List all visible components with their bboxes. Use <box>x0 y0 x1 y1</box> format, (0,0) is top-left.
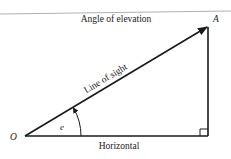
horizontal-label: Horizontal <box>99 141 140 151</box>
point-o-label: O <box>10 132 17 142</box>
angle-of-elevation-diagram: Angle of elevation A O e Line of sight H… <box>0 0 231 159</box>
point-a-label: A <box>212 14 219 24</box>
right-angle-marker <box>200 129 208 136</box>
line-of-sight <box>25 27 207 136</box>
angle-arc-arrow-icon <box>74 108 82 136</box>
angle-label: e <box>60 122 64 132</box>
diagram-title: Angle of elevation <box>81 14 152 24</box>
